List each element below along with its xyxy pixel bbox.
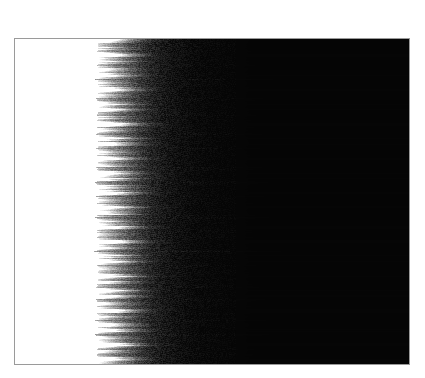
image-canvas (0, 0, 425, 378)
bordered-plate (14, 38, 410, 365)
scan-line-density-field (15, 39, 409, 364)
raster-canvas (15, 39, 409, 364)
